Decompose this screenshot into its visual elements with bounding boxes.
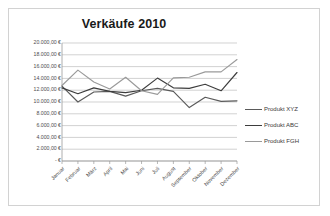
legend-color-swatch	[245, 141, 262, 142]
legend-item[interactable]: Produkt ABC	[245, 117, 319, 133]
legend-color-swatch	[245, 109, 262, 110]
legend-item[interactable]: Produkt FGH	[245, 133, 319, 149]
legend-item-label: Produkt ABC	[264, 122, 298, 128]
legend-item-label: Produkt FGH	[264, 138, 299, 144]
legend-item-label: Produkt XYZ	[264, 106, 298, 112]
legend-color-swatch	[245, 125, 262, 126]
chart-legend: Produkt XYZProdukt ABCProdukt FGH	[245, 101, 319, 149]
legend-item[interactable]: Produkt XYZ	[245, 101, 319, 117]
chart-container: Verkäufe 2010 20.000,00 €18.000,00 €16.0…	[8, 8, 320, 206]
